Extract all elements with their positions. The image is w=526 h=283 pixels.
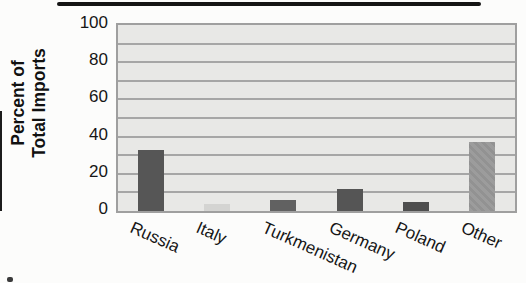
bar-italy xyxy=(204,204,230,211)
y-tick-label-100: 100 xyxy=(0,13,108,33)
gridline-80 xyxy=(118,61,515,63)
y-tick-label-80: 80 xyxy=(0,50,108,70)
gridline-60 xyxy=(118,98,515,100)
gridline-50 xyxy=(118,117,515,119)
x-axis-label-italy: Italy xyxy=(193,218,230,249)
gridline-10 xyxy=(118,191,515,193)
x-axis-label-poland: Poland xyxy=(392,218,448,258)
y-tick-label-40: 40 xyxy=(0,125,108,145)
gridline-20 xyxy=(118,173,515,175)
bar-other xyxy=(469,142,495,211)
scan-artifact xyxy=(7,277,13,282)
bar-russia xyxy=(138,150,164,211)
x-axis-label-russia: Russia xyxy=(127,218,183,257)
gridline-30 xyxy=(118,154,515,156)
bar-turkmenistan xyxy=(270,200,296,211)
gridline-40 xyxy=(118,136,515,138)
bar-poland xyxy=(403,202,429,211)
bar-germany xyxy=(337,189,363,211)
y-tick-label-60: 60 xyxy=(0,87,108,107)
gridline-70 xyxy=(118,80,515,82)
gridline-90 xyxy=(118,43,515,45)
x-axis-label-other: Other xyxy=(458,218,505,254)
top-rule-line xyxy=(57,2,481,6)
y-tick-label-20: 20 xyxy=(0,162,108,182)
y-tick-label-0: 0 xyxy=(0,199,108,219)
plot-area xyxy=(116,23,517,213)
figure: Percent of Total Imports 020406080100 Ru… xyxy=(0,0,526,283)
